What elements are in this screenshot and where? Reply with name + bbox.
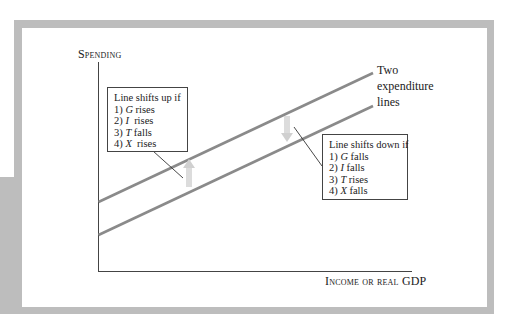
shift-up-item: 4) X rises (114, 138, 182, 150)
up-arrow-icon (183, 159, 195, 187)
x-axis-label: Income or real GDP (325, 274, 427, 289)
shift-up-title: Line shifts up if (114, 92, 182, 104)
expenditure-lines-label: Two expenditure lines (377, 62, 434, 110)
shift-down-box: Line shifts down if 1) G falls 2) I fall… (322, 134, 408, 200)
shift-up-item: 2) I rises (114, 115, 182, 127)
y-axis-label: Spending (78, 47, 121, 62)
diagram-canvas (0, 0, 507, 329)
shift-up-item: 1) G rises (114, 104, 182, 116)
shift-down-item: 2) I falls (329, 162, 402, 174)
shift-down-item: 4) X falls (329, 185, 402, 197)
lines-label-line1: Two (377, 62, 434, 78)
lines-label-line3: lines (377, 94, 434, 110)
shift-down-title: Line shifts down if (329, 139, 402, 151)
shift-down-item: 1) G falls (329, 151, 402, 163)
shift-up-item: 3) T falls (114, 127, 182, 139)
shift-down-item: 3) T rises (329, 174, 402, 186)
lines-label-line2: expenditure (377, 78, 434, 94)
shift-up-box: Line shifts up if 1) G rises 2) I rises … (107, 87, 188, 152)
down-arrow-icon (281, 116, 293, 142)
